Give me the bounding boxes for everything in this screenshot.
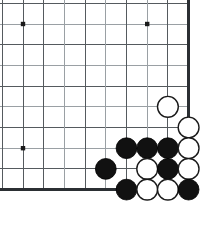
- black-stone: [116, 138, 137, 159]
- star-point: [145, 22, 149, 26]
- white-stone: [178, 138, 199, 159]
- black-stone: [178, 179, 199, 200]
- go-board-diagram: [0, 0, 218, 233]
- star-point: [21, 22, 25, 26]
- white-stone: [158, 96, 179, 117]
- black-stone: [95, 159, 116, 180]
- go-board-canvas: [0, 0, 218, 233]
- white-stone: [137, 179, 158, 200]
- white-stone: [178, 117, 199, 138]
- black-stone: [158, 159, 179, 180]
- black-stone: [158, 138, 179, 159]
- star-point: [21, 146, 25, 150]
- black-stone: [116, 179, 137, 200]
- black-stone: [137, 138, 158, 159]
- white-stone: [178, 159, 199, 180]
- board-grid: [0, 0, 189, 190]
- white-stone: [137, 159, 158, 180]
- white-stone: [158, 179, 179, 200]
